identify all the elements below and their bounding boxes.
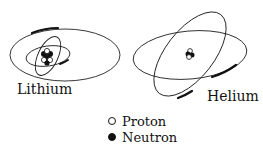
lithium-outer-orbit	[10, 29, 120, 81]
open-circle-icon	[108, 117, 116, 125]
legend-label-proton: Proton	[122, 114, 166, 129]
helium-electron-trail-1	[212, 65, 236, 77]
lithium-label: Lithium	[17, 82, 72, 96]
legend-item-neutron: Neutron	[108, 129, 177, 145]
helium-label: Helium	[207, 89, 259, 103]
helium-electron-trail-2	[178, 91, 192, 98]
legend: Proton Neutron	[108, 113, 177, 145]
filled-circle-icon	[108, 133, 116, 141]
lithium-nucleus	[41, 48, 53, 65]
legend-item-proton: Proton	[108, 113, 177, 129]
legend-label-neutron: Neutron	[122, 130, 177, 145]
lithium-atom	[10, 28, 120, 81]
helium-nucleus	[186, 49, 195, 60]
